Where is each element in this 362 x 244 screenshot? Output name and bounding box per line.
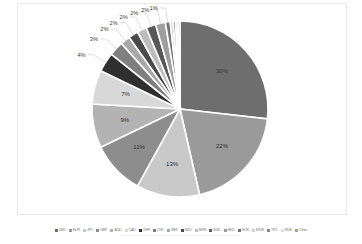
label-leader-line bbox=[110, 29, 126, 41]
legend-item-label: EUR bbox=[73, 228, 80, 232]
legend-item-label: NZD bbox=[185, 228, 192, 232]
legend-swatch bbox=[55, 229, 58, 232]
legend-swatch bbox=[195, 229, 198, 232]
label-leader-line bbox=[120, 23, 134, 36]
legend-item[interactable]: CHF bbox=[139, 228, 150, 232]
legend-item-label: NOK bbox=[242, 228, 249, 232]
legend-item[interactable]: HKD bbox=[224, 228, 235, 232]
legend-item-label: CAD bbox=[129, 228, 136, 232]
legend-swatch bbox=[224, 229, 227, 232]
label-leader-line bbox=[151, 10, 161, 25]
pie-slices bbox=[92, 21, 268, 197]
legend-item[interactable]: EUR bbox=[69, 228, 80, 232]
legend-swatch bbox=[83, 229, 86, 232]
legend-item-label: JPY bbox=[87, 228, 93, 232]
pie-data-label: 2% bbox=[100, 26, 108, 32]
pie-data-label: 9% bbox=[120, 117, 129, 123]
legend-item-label: MXN bbox=[199, 228, 207, 232]
legend-item[interactable]: AUD bbox=[110, 228, 121, 232]
legend-item[interactable]: CAD bbox=[125, 228, 136, 232]
pie-data-label: 22% bbox=[216, 143, 229, 149]
pie-data-label: 4% bbox=[78, 52, 86, 58]
legend-item-label: AUD bbox=[114, 228, 121, 232]
legend-swatch bbox=[153, 229, 156, 232]
legend-item-label: KRW bbox=[256, 228, 264, 232]
pie-data-label: 1% bbox=[150, 5, 158, 11]
legend-item-label: USD bbox=[59, 228, 66, 232]
legend-item[interactable]: GBP bbox=[96, 228, 107, 232]
legend-swatch bbox=[281, 229, 284, 232]
legend-item[interactable]: TRY bbox=[267, 228, 278, 232]
pie-data-label: 2% bbox=[110, 20, 118, 26]
legend-swatch bbox=[295, 229, 298, 232]
pie-data-label: 30% bbox=[216, 68, 229, 74]
label-leader-line bbox=[88, 55, 107, 63]
legend-swatch bbox=[96, 229, 99, 232]
label-leader-line bbox=[140, 13, 151, 28]
legend-swatch bbox=[139, 229, 142, 232]
legend-item[interactable]: MXN bbox=[195, 228, 207, 232]
pie-data-label: 7% bbox=[121, 91, 130, 97]
label-leader-line bbox=[130, 17, 143, 31]
legend-item[interactable]: USD bbox=[55, 228, 66, 232]
pie-chart-area: 30%22%13%11%9%7%4%3%2%2%2%2%2%1% bbox=[17, 3, 347, 215]
legend-swatch bbox=[209, 229, 212, 232]
legend-swatch bbox=[238, 229, 241, 232]
pie-data-label: 2% bbox=[141, 7, 149, 13]
legend-item-label: SGD bbox=[213, 228, 220, 232]
legend-swatch bbox=[125, 229, 128, 232]
legend-item[interactable]: SEK bbox=[167, 228, 178, 232]
legend-swatch bbox=[69, 229, 72, 232]
pie-chart-svg: 30%22%13%11%9%7%4%3%2%2%2%2%2%1% bbox=[17, 3, 347, 215]
legend-item[interactable]: Other bbox=[295, 228, 307, 232]
chart-root: 30%22%13%11%9%7%4%3%2%2%2%2%2%1% USDEURJ… bbox=[0, 0, 362, 244]
legend-item-label: CHF bbox=[143, 228, 150, 232]
legend-item-label: HKD bbox=[228, 228, 235, 232]
legend-item[interactable]: NOK bbox=[238, 228, 249, 232]
legend-item-label: Other bbox=[299, 228, 307, 232]
legend-item-label: GBP bbox=[100, 228, 107, 232]
legend-item-label: RUB bbox=[285, 228, 292, 232]
legend-item[interactable]: KRW bbox=[252, 228, 264, 232]
legend-swatch bbox=[110, 229, 113, 232]
legend-item[interactable]: SGD bbox=[209, 228, 220, 232]
legend-item[interactable]: NZD bbox=[181, 228, 192, 232]
pie-data-label: 3% bbox=[90, 36, 98, 42]
legend-item-label: SEK bbox=[171, 228, 178, 232]
pie-data-label: 13% bbox=[166, 161, 179, 167]
pie-data-label: 2% bbox=[130, 10, 138, 16]
legend-item-label: TRY bbox=[271, 228, 278, 232]
legend-item-label: CNY bbox=[157, 228, 164, 232]
legend-item[interactable]: CNY bbox=[153, 228, 164, 232]
pie-data-label: 2% bbox=[120, 14, 128, 20]
label-leader-line bbox=[100, 39, 117, 50]
legend-swatch bbox=[267, 229, 270, 232]
legend-swatch bbox=[181, 229, 184, 232]
pie-data-label: 11% bbox=[133, 144, 145, 150]
legend-swatch bbox=[252, 229, 255, 232]
legend-item[interactable]: RUB bbox=[281, 228, 292, 232]
legend-swatch bbox=[167, 229, 170, 232]
chart-legend: USDEURJPYGBPAUDCADCHFCNYSEKNZDMXNSGDHKDN… bbox=[0, 222, 362, 238]
legend-item[interactable]: JPY bbox=[83, 228, 93, 232]
